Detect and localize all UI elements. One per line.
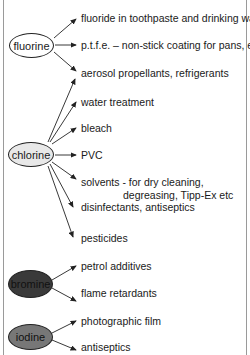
fluorine-node: fluorine xyxy=(9,33,54,58)
use-item: PVC xyxy=(81,149,103,162)
use-item: petrol additives xyxy=(81,260,152,273)
use-item: solvents - for dry cleaning, xyxy=(81,176,204,189)
chlorine-node: chlorine xyxy=(8,142,54,167)
use-item: water treatment xyxy=(81,96,154,109)
use-item: fluoride in toothpaste and drinking wate… xyxy=(81,12,250,25)
use-item: aerosol propellants, refrigerants xyxy=(81,67,229,80)
iodine-label: iodine xyxy=(16,331,45,343)
iodine-node: iodine xyxy=(8,324,53,350)
use-item: flame retardants xyxy=(81,287,157,300)
bromine-node: bromine xyxy=(8,270,53,298)
use-item: antiseptics xyxy=(81,341,131,354)
chlorine-label: chlorine xyxy=(12,149,51,161)
use-item: pesticides xyxy=(81,232,128,245)
fluorine-label: fluorine xyxy=(13,40,49,52)
use-item: p.t.f.e. – non-stick coating for pans, e… xyxy=(81,39,250,52)
use-item: photographic film xyxy=(81,315,161,328)
use-item: disinfectants, antiseptics xyxy=(81,201,195,214)
bromine-label: bromine xyxy=(11,278,51,290)
use-item: bleach xyxy=(81,122,112,135)
